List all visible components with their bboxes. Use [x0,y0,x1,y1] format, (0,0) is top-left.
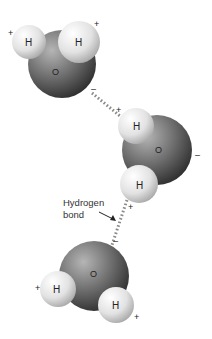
hydrogen-bond-annotation: Hydrogen bond [63,197,116,221]
hydrogen-label: H [112,300,119,311]
annotation-text: Hydrogen [63,197,104,208]
charge-label: + [134,312,139,322]
oxygen-label: O [90,269,97,279]
hydrogen-label: H [75,37,82,48]
water-molecule-bottom: H H O + + – [35,236,139,323]
hydrogen-label: H [133,121,140,132]
oxygen-label: O [155,145,162,155]
annotation-arrow-line [99,212,113,219]
hydrogen-label: H [136,180,143,191]
charge-label: + [116,105,121,115]
hydrogen-label: H [53,284,60,295]
charge-label: + [35,283,40,293]
charge-label: + [8,28,13,38]
charge-label: + [128,202,133,212]
oxygen-label: O [52,67,59,77]
hydrogen-label: H [25,37,32,48]
charge-label: – [195,150,200,160]
hydrogen-bond-diagram: H H O + + – H H O + + – Hydrogen bond H … [0,0,212,339]
water-molecule-top: H H O + + – [8,19,100,98]
charge-label: – [91,84,96,94]
water-molecule-middle: H H O + + – [116,105,200,212]
charge-label: – [113,236,118,246]
charge-label: + [94,19,99,29]
annotation-text: bond [63,209,84,220]
